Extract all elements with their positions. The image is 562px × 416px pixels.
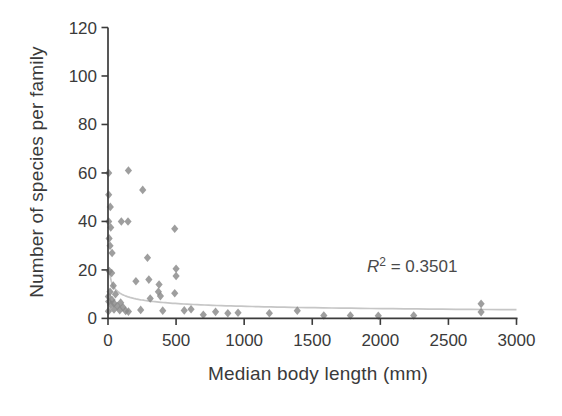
data-point [172, 272, 179, 281]
data-point [137, 306, 144, 315]
x-tick-label: 0 [103, 331, 112, 350]
y-tick-label: 100 [69, 67, 97, 86]
y-tick-label: 80 [78, 115, 97, 134]
y-axis-title: Number of species per family [26, 46, 48, 298]
data-point [118, 217, 125, 226]
r-exponent: 2 [379, 255, 386, 269]
y-tick-label: 40 [78, 212, 97, 231]
data-point [159, 306, 166, 315]
scatter-plot-figure: 050010001500200025003000020406080100120 … [0, 0, 562, 416]
x-tick-label: 2500 [430, 331, 468, 350]
data-point [181, 306, 188, 315]
data-point [187, 305, 194, 314]
x-tick-label: 500 [162, 331, 190, 350]
data-point [132, 277, 139, 286]
y-tick-label: 60 [78, 164, 97, 183]
r-squared-value: = 0.3501 [386, 257, 457, 276]
scatter-points [105, 166, 485, 320]
data-point [234, 309, 241, 318]
data-point [125, 166, 132, 175]
data-point [144, 253, 151, 262]
data-point [155, 280, 162, 289]
data-point [171, 289, 178, 298]
x-tick-label: 1000 [225, 331, 263, 350]
r-squared-annotation: R2 = 0.3501 [367, 257, 457, 277]
data-point [266, 309, 273, 318]
data-point [224, 309, 231, 318]
x-axis-ticks: 050010001500200025003000 [103, 318, 535, 350]
y-axis-ticks: 020406080100120 [69, 19, 108, 329]
x-tick-label: 3000 [498, 331, 536, 350]
data-point [171, 224, 178, 233]
data-point [124, 217, 131, 226]
r-symbol: R [367, 257, 379, 276]
data-point [108, 249, 115, 258]
data-point [212, 308, 219, 317]
data-point [105, 234, 112, 243]
data-point [139, 186, 146, 195]
x-tick-label: 2000 [361, 331, 399, 350]
y-tick-label: 20 [78, 261, 97, 280]
y-tick-label: 0 [88, 309, 97, 328]
x-axis-title: Median body length (mm) [208, 363, 428, 385]
data-point [477, 300, 484, 309]
x-tick-label: 1500 [293, 331, 331, 350]
y-tick-label: 120 [69, 19, 97, 38]
chart-canvas: 050010001500200025003000020406080100120 [0, 0, 562, 416]
data-point [145, 275, 152, 284]
